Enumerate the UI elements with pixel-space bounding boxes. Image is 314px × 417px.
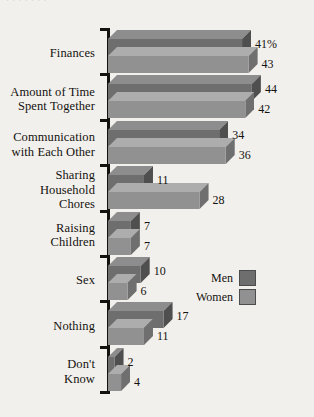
legend-label-women: Women	[196, 290, 233, 305]
value-label-women: 7	[144, 240, 150, 252]
value-label-women: 4	[134, 376, 140, 388]
category-label: Sharing Household Chores	[40, 168, 95, 212]
bar-women	[108, 183, 209, 209]
legend-item-women: Women	[196, 289, 256, 305]
value-label-men: 41%	[255, 38, 277, 50]
bar-women	[108, 138, 235, 164]
category-label: Communication with Each Other	[12, 130, 95, 159]
legend-label-men: Men	[211, 271, 233, 286]
value-label-men: 10	[154, 265, 166, 277]
legend-swatch-women	[239, 289, 256, 305]
value-label-men: 2	[128, 356, 134, 368]
category-label: Nothing	[53, 319, 95, 334]
bar-chart: · · · · · · · FinancesAmount of Time Spe…	[0, 0, 314, 417]
value-label-women: 6	[141, 285, 147, 297]
value-label-women: 43	[262, 58, 274, 70]
bar-women	[108, 319, 153, 345]
value-label-women: 11	[157, 330, 169, 342]
category-label: Amount of Time Spent Together	[10, 85, 95, 114]
category-label: Raising Children	[50, 221, 95, 250]
category-label: Sex	[76, 273, 95, 288]
bar-women	[108, 365, 130, 391]
value-label-women: 28	[213, 194, 225, 206]
value-label-women: 42	[258, 103, 270, 115]
bar-women	[108, 229, 140, 255]
bar-women	[108, 274, 137, 300]
category-label: Finances	[50, 46, 95, 61]
bar-women	[108, 92, 254, 118]
value-label-men: 7	[144, 220, 150, 232]
value-label-men: 11	[157, 174, 169, 186]
category-label: Don't Know	[64, 357, 95, 386]
plot-area: FinancesAmount of Time Spent TogetherCom…	[0, 8, 314, 412]
axis-tick	[100, 391, 110, 394]
legend-swatch-men	[239, 270, 256, 286]
legend-item-men: Men	[196, 270, 256, 286]
clipped-header-text: · · · · · · ·	[6, 0, 236, 7]
legend: Men Women	[196, 270, 256, 308]
value-label-men: 44	[265, 83, 277, 95]
value-label-men: 17	[177, 310, 189, 322]
value-label-women: 36	[239, 149, 251, 161]
value-label-men: 34	[232, 129, 244, 141]
bar-women	[108, 47, 258, 73]
